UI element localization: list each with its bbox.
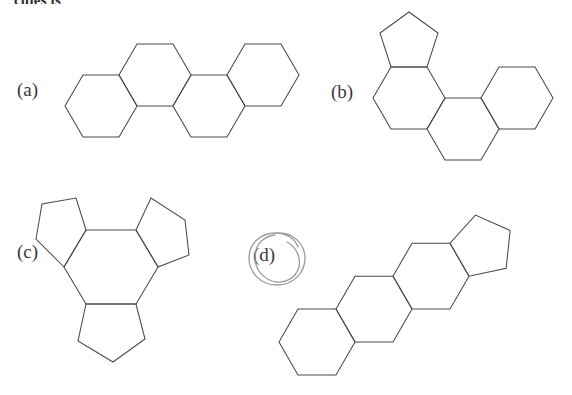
structure-d-diagram	[285, 192, 485, 392]
structure-b-diagram	[376, 8, 568, 178]
hexagon-ring-d-2	[336, 276, 412, 342]
hexagon-ring-c-center	[64, 230, 158, 304]
pentagon-ring-b-4	[380, 12, 438, 67]
hexagon-ring-b-1	[373, 67, 445, 129]
hexagon-ring-b-3	[481, 67, 553, 129]
pentagon-ring-c-upper-right	[136, 198, 189, 267]
hexagon-ring-3	[173, 75, 245, 137]
structure-a-diagram	[55, 40, 305, 175]
hexagon-ring-1	[65, 75, 137, 137]
figure-canvas: cules is (a) (b) (c)	[0, 0, 572, 395]
hexagon-ring-d-3	[393, 243, 469, 309]
hexagon-ring-d-1	[279, 309, 355, 375]
cropped-header-text: cules is	[14, 0, 61, 4]
pentagon-ring-c-lower	[78, 304, 145, 362]
pentagon-ring-d-4	[450, 215, 510, 276]
option-b-label: (b)	[331, 82, 353, 101]
hexagon-ring-b-2	[427, 98, 499, 160]
structure-c-diagram	[33, 195, 211, 370]
hexagon-ring-4	[227, 44, 299, 106]
hexagon-ring-2	[119, 44, 191, 106]
pentagon-ring-c-upper-left	[36, 198, 86, 267]
option-a-label: (a)	[17, 80, 38, 99]
